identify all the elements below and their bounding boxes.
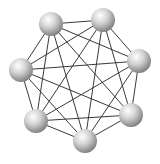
complete-graph-diagram [0, 0, 160, 164]
edge-n1-n5 [36, 24, 51, 121]
edge-n2-n6 [103, 20, 131, 115]
sphere-node-n4 [9, 58, 33, 82]
edge-n1-n3 [51, 24, 139, 61]
edge-n6-n5 [36, 115, 131, 121]
edge-n2-n5 [36, 20, 103, 121]
edge-n3-n7 [85, 61, 139, 141]
sphere-node-n7 [73, 129, 97, 153]
edge-n3-n4 [21, 61, 139, 70]
sphere-node-n1 [39, 12, 63, 36]
sphere-node-n5 [24, 109, 48, 133]
sphere-node-n6 [119, 103, 143, 127]
sphere-node-n2 [91, 8, 115, 32]
sphere-node-n3 [127, 49, 151, 73]
